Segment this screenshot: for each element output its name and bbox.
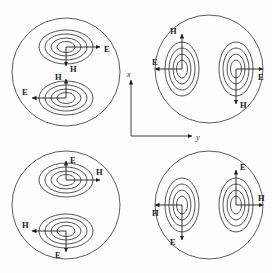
panel-top-left: E H E H — [12, 18, 120, 126]
label-H-bottom-right-right: H — [258, 193, 265, 203]
panel-top-right: H E E H — [152, 15, 264, 123]
label-H-top-right-left: H — [170, 26, 177, 36]
axis-label-x: x — [126, 70, 131, 79]
label-H-bottom-left-upper: H — [96, 167, 103, 177]
coordinate-axes: x y — [126, 70, 200, 142]
label-E-top-left-lower: E — [22, 87, 28, 97]
label-E-top-left-upper: E — [104, 44, 110, 54]
label-E-top-right-right: E — [258, 72, 264, 82]
label-E-bottom-left-lower: E — [55, 250, 61, 260]
lobe-left-field-arrows: H E — [152, 205, 182, 247]
label-H-top-left-upper: H — [70, 64, 77, 74]
lobe-right-field-arrows: E H — [236, 162, 265, 205]
label-H-top-left-lower: H — [55, 72, 62, 82]
label-H-bottom-right-left: H — [152, 208, 159, 218]
lobe-left-field-arrows: H E — [152, 26, 182, 69]
label-E-bottom-right-right: E — [240, 162, 246, 172]
figure-root: llll'l llLlJl lllll ll llllLll E H — [0, 0, 272, 273]
panel-bottom-left: E H H E — [12, 151, 120, 260]
axis-label-y: y — [195, 133, 200, 142]
label-E-bottom-left-upper: E — [70, 155, 76, 165]
label-H-bottom-left-lower: H — [22, 220, 29, 230]
field-mode-diagram: E H E H — [0, 0, 272, 273]
label-E-bottom-right-left: E — [170, 237, 176, 247]
label-H-top-right-right: H — [240, 100, 247, 110]
panel-bottom-right: H E E H — [152, 151, 265, 259]
label-E-top-right-left: E — [152, 57, 158, 67]
